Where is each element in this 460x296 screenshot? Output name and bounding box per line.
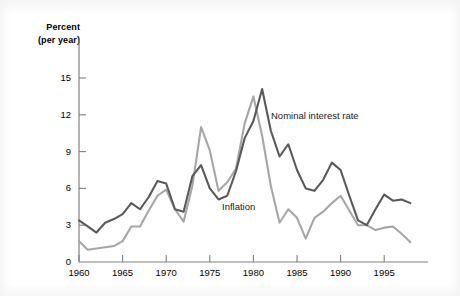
chart-axes [79, 40, 428, 262]
series-line-inflation [79, 96, 410, 249]
y-axis-ticks [79, 78, 86, 225]
x-axis-ticks [79, 255, 384, 262]
chart-figure: Percent (per year) 03691215 196019651970… [0, 0, 460, 296]
series-label-inflation: Inflation [222, 201, 255, 212]
chart-series-lines [79, 89, 410, 250]
chart-plot-area [0, 0, 460, 296]
series-label-nominal-interest-rate: Nominal interest rate [271, 110, 359, 121]
